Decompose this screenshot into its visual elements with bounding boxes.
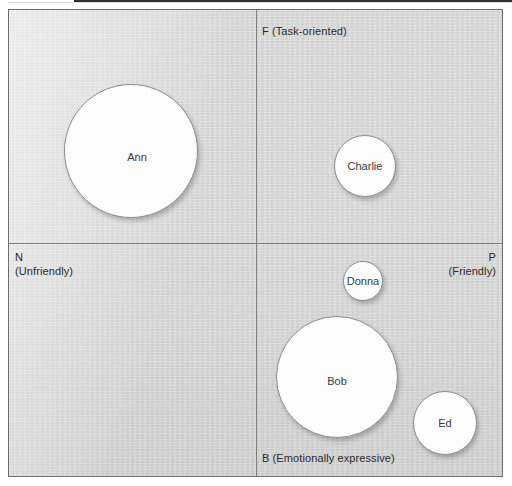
bubble-label-charlie: Charlie	[348, 160, 383, 172]
axis-label-left-descriptor: (Unfriendly)	[15, 264, 73, 278]
page-scan-artifact-line-secondary	[8, 2, 512, 3]
figure-canvas: F (Task-oriented) N (Unfriendly) P (Frie…	[0, 0, 512, 486]
bubble-label-bob: Bob	[327, 375, 347, 387]
axis-label-left-code: N	[15, 251, 23, 263]
axis-label-left: N (Unfriendly)	[15, 250, 73, 278]
horizontal-axis-divider	[9, 243, 502, 244]
axis-label-right-code: P	[489, 251, 496, 263]
axis-label-right-descriptor: (Friendly)	[449, 264, 496, 278]
axis-label-top-text: F (Task-oriented)	[262, 25, 347, 37]
quadrant-plot-area: F (Task-oriented) N (Unfriendly) P (Frie…	[8, 9, 503, 477]
bubble-charlie[interactable]: Charlie	[334, 135, 396, 197]
axis-label-bottom-text: B (Emotionally expressive)	[262, 452, 395, 464]
bubble-label-ann: Ann	[127, 151, 147, 163]
bubble-donna[interactable]: Donna	[343, 261, 383, 301]
bubble-ed[interactable]: Ed	[413, 391, 477, 455]
axis-label-top: F (Task-oriented)	[262, 24, 347, 38]
bubble-ann[interactable]: Ann	[64, 84, 198, 218]
axis-label-right: P (Friendly)	[449, 250, 496, 278]
bubble-label-donna: Donna	[347, 275, 379, 287]
axis-label-bottom: B (Emotionally expressive)	[262, 451, 395, 465]
bubble-bob[interactable]: Bob	[276, 316, 398, 438]
bubble-label-ed: Ed	[438, 417, 451, 429]
